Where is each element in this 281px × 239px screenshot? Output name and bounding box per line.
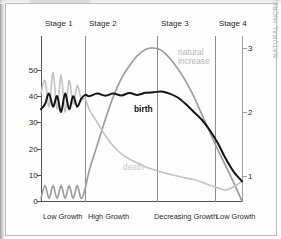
- natural-increase-curve: [41, 48, 242, 201]
- chart-canvas: CRUDE BIRTH AND DEATH RATES (PER 1,000) …: [0, 0, 281, 239]
- death-rate-curve: [41, 73, 242, 190]
- curves-layer: [0, 0, 281, 239]
